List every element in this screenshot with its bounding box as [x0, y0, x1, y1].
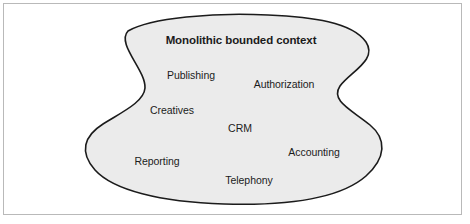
figure-root: Monolithic bounded context Publishing Au…	[0, 0, 470, 224]
subdomain-label-creatives: Creatives	[150, 105, 194, 116]
subdomain-label-reporting: Reporting	[134, 156, 179, 167]
subdomain-label-crm: CRM	[228, 123, 252, 134]
subdomain-label-accounting: Accounting	[288, 147, 339, 158]
subdomain-label-telephony: Telephony	[225, 175, 272, 186]
page-title: Monolithic bounded context	[166, 35, 317, 47]
subdomain-label-publishing: Publishing	[167, 70, 215, 81]
subdomain-label-authorization: Authorization	[254, 79, 315, 90]
